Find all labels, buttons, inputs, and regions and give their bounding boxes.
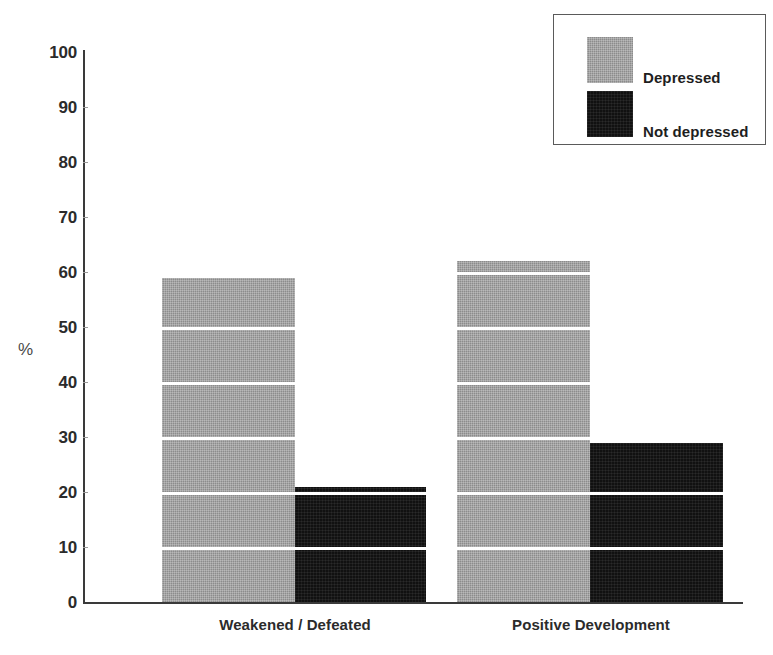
y-axis-label: % bbox=[18, 340, 33, 360]
y-tickmark-70 bbox=[83, 217, 88, 218]
x-axis-label-positive-development: Positive Development bbox=[459, 616, 723, 633]
bar-positive-development-depressed bbox=[457, 261, 590, 603]
legend-swatch-not-depressed bbox=[587, 91, 633, 137]
y-tick-label-100: 100 bbox=[29, 44, 77, 61]
bar-weakened-defeated-not-depressed bbox=[295, 487, 426, 603]
y-tick-label-20: 20 bbox=[29, 484, 77, 501]
y-tick-label-60: 60 bbox=[29, 264, 77, 281]
x-axis-label-weakened-defeated: Weakened / Defeated bbox=[164, 616, 426, 633]
y-tick-label-10: 10 bbox=[29, 539, 77, 556]
y-tickmark-20 bbox=[83, 492, 88, 493]
x-axis-line bbox=[83, 602, 743, 604]
y-tick-label-40: 40 bbox=[29, 374, 77, 391]
y-tickmark-40 bbox=[83, 382, 88, 383]
y-axis-tick-labels: 100 90 80 70 60 50 40 30 20 10 0 bbox=[20, 0, 77, 655]
y-tickmark-30 bbox=[83, 437, 88, 438]
y-tickmark-90 bbox=[83, 107, 88, 108]
legend: Depressed Not depressed bbox=[553, 14, 766, 145]
legend-label-not-depressed: Not depressed bbox=[643, 123, 749, 140]
bar-positive-development-not-depressed bbox=[590, 443, 723, 603]
y-tickmark-60 bbox=[83, 272, 88, 273]
y-tick-label-0: 0 bbox=[29, 594, 77, 611]
gridline-60 bbox=[83, 272, 743, 275]
legend-label-depressed: Depressed bbox=[643, 69, 721, 86]
y-tick-label-90: 90 bbox=[29, 99, 77, 116]
y-tick-label-30: 30 bbox=[29, 429, 77, 446]
plot-area: 100 90 80 70 60 50 40 30 20 10 0 % Weake… bbox=[0, 0, 773, 655]
y-tickmark-10 bbox=[83, 547, 88, 548]
bar-weakened-defeated-depressed bbox=[162, 278, 295, 603]
y-tick-label-70: 70 bbox=[29, 209, 77, 226]
y-tick-label-80: 80 bbox=[29, 154, 77, 171]
legend-swatch-depressed bbox=[587, 37, 633, 83]
bar-chart: 100 90 80 70 60 50 40 30 20 10 0 % Weake… bbox=[0, 0, 773, 655]
y-tick-label-50: 50 bbox=[29, 319, 77, 336]
y-tickmark-50 bbox=[83, 327, 88, 328]
y-tickmark-80 bbox=[83, 162, 88, 163]
